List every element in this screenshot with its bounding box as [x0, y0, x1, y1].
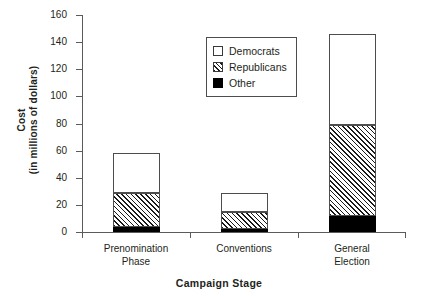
x-tick-1	[190, 232, 191, 238]
stacked-bar	[221, 193, 268, 232]
legend-item-other: Other	[213, 75, 287, 91]
y-tick-120: 120	[76, 69, 82, 70]
y-tick-140: 140	[76, 42, 82, 43]
bar-segment-democrats	[113, 153, 160, 192]
bar-segment-republicans	[329, 125, 376, 216]
y-tick-40: 40	[76, 178, 82, 179]
y-tick-60: 60	[76, 151, 82, 152]
x-axis-label-conventions: Conventions	[190, 243, 298, 256]
y-tick-label-40: 40	[56, 173, 67, 183]
stacked-bar	[113, 153, 160, 232]
y-tick-label-120: 120	[50, 64, 67, 74]
legend-label-democrats: Democrats	[229, 46, 280, 57]
x-axis-label-line: General	[298, 243, 406, 256]
bar-segment-other	[221, 229, 268, 232]
y-axis-title-line1: Cost	[16, 66, 28, 175]
bar-segment-other	[329, 216, 376, 232]
x-tick-0	[82, 232, 83, 238]
y-tick-label-60: 60	[56, 146, 67, 156]
y-axis-line	[82, 15, 83, 232]
legend-item-republicans: Republicans	[213, 59, 287, 75]
x-axis-label-line: Phase	[82, 256, 190, 269]
x-axis-label-line: Election	[298, 256, 406, 269]
bar-segment-democrats	[221, 193, 268, 212]
y-tick-80: 80	[76, 124, 82, 125]
bar-segment-republicans	[221, 212, 268, 230]
y-tick-label-100: 100	[50, 91, 67, 101]
legend-label-other: Other	[229, 78, 255, 89]
x-tick-2	[298, 232, 299, 238]
y-tick-160: 160	[76, 15, 82, 16]
y-tick-100: 100	[76, 96, 82, 97]
bar-segment-republicans	[113, 193, 160, 227]
x-axis-line	[82, 232, 406, 233]
y-tick-label-160: 160	[50, 10, 67, 20]
y-axis-title-line2: (in millions of dollars)	[28, 66, 40, 175]
y-tick-label-0: 0	[61, 227, 67, 237]
chart-figure: Cost (in millions of dollars) 0204060801…	[0, 0, 438, 301]
x-axis-label-line: Prenomination	[82, 243, 190, 256]
y-tick-label-20: 20	[56, 200, 67, 210]
bar-segment-other	[113, 227, 160, 232]
plot-area: 020406080100120140160 Democrats Republic…	[82, 15, 406, 232]
y-tick-label-80: 80	[56, 119, 67, 129]
stacked-bar	[329, 34, 376, 232]
x-tick-3	[405, 232, 406, 238]
x-axis-label-line: Conventions	[190, 243, 298, 256]
bar-segment-democrats	[329, 34, 376, 125]
hatched-square-icon	[213, 62, 223, 72]
legend-label-republicans: Republicans	[229, 62, 287, 73]
y-axis-title: Cost (in millions of dollars)	[8, 0, 48, 240]
legend-item-democrats: Democrats	[213, 43, 287, 59]
chart-legend: Democrats Republicans Other	[206, 37, 297, 97]
x-axis-title: Campaign Stage	[0, 277, 438, 289]
white-square-icon	[213, 46, 223, 56]
x-axis-label-prenomination-phase: PrenominationPhase	[82, 243, 190, 268]
y-tick-label-140: 140	[50, 37, 67, 47]
black-square-icon	[213, 78, 223, 88]
y-tick-20: 20	[76, 205, 82, 206]
x-axis-label-general-election: GeneralElection	[298, 243, 406, 268]
